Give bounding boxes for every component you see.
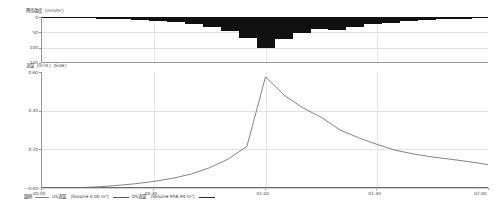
flow-ytick-040: 0.40 [18, 108, 38, 113]
flow-ytickmark [39, 72, 41, 73]
legend-detail-ds-flow: （Volume 958.94 m³） [148, 194, 197, 200]
legend-item-ds-flow[interactable]: DS流量 （Volume 958.94 m³） [132, 194, 215, 200]
rainfall-plot-area [41, 17, 488, 63]
rainfall-bar [346, 17, 364, 27]
rainfall-axis-label: 降雨強度（mm/hr） [26, 8, 66, 13]
flow-ytick-020: 0.20 [18, 147, 38, 152]
rainfall-bar [328, 17, 346, 30]
rainfall-chart-panel: 降雨強度（mm/hr） 0 50 100 150 [0, 0, 495, 68]
hydrology-chart-page: 降雨強度（mm/hr） 0 50 100 150 流量（m³/s）（Side） … [0, 0, 495, 211]
flow-ytick-060: 0.60 [18, 70, 38, 75]
rainfall-vgridline [154, 17, 155, 62]
flow-axis-label: 流量（m³/s）（Side） [26, 63, 69, 68]
rainfall-bar [185, 17, 203, 24]
flow-hydrograph-line [42, 72, 488, 188]
legend-detail-us-flow: （Volume 0.00 m³） [68, 194, 111, 200]
flow-xtick-0100: 01:00 [257, 191, 270, 196]
flow-xtick-0130: 01:30 [368, 191, 381, 196]
rainfall-ytickmark [39, 32, 41, 33]
rainfall-bar [257, 17, 275, 48]
legend-leader-rule [35, 197, 49, 198]
legend-swatch-us-flow [113, 197, 129, 198]
legend-swatch-ds-flow [199, 197, 215, 198]
rainfall-ytick-100: 100 [20, 45, 38, 50]
rainfall-bar [292, 17, 310, 33]
legend-title: 圖例 [24, 194, 32, 200]
chart-legend: 圖例 US流量 （Volume 0.00 m³） DS流量 （Volume 95… [24, 192, 215, 202]
rainfall-ytick-0: 0 [20, 15, 38, 20]
flow-plot-area [41, 72, 488, 188]
rainfall-bar [310, 17, 328, 29]
flow-ytickmark [39, 149, 41, 150]
legend-divider [24, 188, 490, 189]
rainfall-ytickmark [39, 48, 41, 49]
legend-label-us-flow: US流量 [52, 194, 66, 200]
rainfall-bar [364, 17, 382, 24]
rainfall-bar [221, 17, 239, 31]
rainfall-bar [274, 17, 292, 39]
flow-xtick-0200: 02:00 [474, 191, 487, 196]
rainfall-ytickmark [39, 17, 41, 18]
rainfall-bar [203, 17, 221, 27]
flow-ytickmark [39, 111, 41, 112]
rainfall-ytick-50: 50 [20, 30, 38, 35]
legend-label-ds-flow: DS流量 [132, 194, 146, 200]
rainfall-bar [239, 17, 257, 38]
legend-item-us-flow[interactable]: US流量 （Volume 0.00 m³） [52, 194, 129, 200]
rainfall-top-rule [42, 17, 488, 18]
